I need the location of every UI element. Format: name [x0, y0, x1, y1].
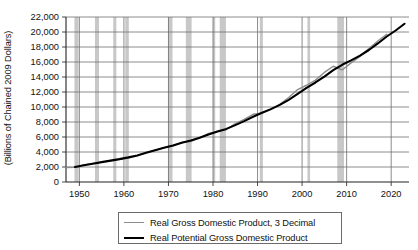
y-axis-tick-label: 22,000	[31, 12, 59, 22]
chart-plot-svg: 22,00020,00018,00016,00014,00012,00010,0…	[0, 0, 418, 205]
x-axis-tick-label: 1970	[158, 189, 179, 199]
x-axis-tick-label: 1950	[69, 189, 90, 199]
legend-label-gdp: Real Gross Domestic Product, 3 Decimal	[150, 218, 315, 228]
chart-container: (Billions of Chained 2009 Dollars) 22,00…	[0, 0, 418, 250]
x-axis-tick-label: 2020	[381, 189, 402, 199]
x-axis-tick-label: 1980	[203, 189, 224, 199]
y-axis-tick-label: 10,000	[31, 102, 59, 112]
legend-label-potential-gdp: Real Potential Gross Domestic Product	[150, 233, 308, 243]
recession-band	[186, 17, 192, 182]
legend-item-gdp: Real Gross Domestic Product, 3 Decimal	[124, 215, 336, 230]
y-axis-tick-label: 4,000	[36, 147, 59, 157]
y-axis-tick-label: 14,000	[31, 72, 59, 82]
recession-band	[307, 17, 310, 182]
y-axis-tick-label: 12,000	[31, 87, 59, 97]
y-axis-tick-label: 0	[54, 177, 59, 187]
recession-band	[113, 17, 116, 182]
recession-band	[260, 17, 263, 182]
legend-item-potential-gdp: Real Potential Gross Domestic Product	[124, 230, 336, 245]
y-axis-tick-label: 2,000	[36, 162, 59, 172]
recession-band	[220, 17, 226, 182]
recession-band	[337, 17, 344, 182]
x-axis-tick-label: 1960	[114, 189, 135, 199]
y-axis-tick-label: 8,000	[36, 117, 59, 127]
x-axis-tick-label: 1990	[247, 189, 268, 199]
series-line-potential-gdp	[75, 24, 405, 167]
y-axis-tick-label: 6,000	[36, 132, 59, 142]
recession-band	[95, 17, 99, 182]
chart-legend: Real Gross Domestic Product, 3 Decimal R…	[118, 212, 342, 244]
y-axis-tick-label: 18,000	[31, 42, 59, 52]
y-axis-title-wrap: (Billions of Chained 2009 Dollars)	[0, 0, 17, 195]
x-axis-tick-label: 2000	[292, 189, 313, 199]
recession-band	[74, 17, 78, 182]
y-axis-title: (Billions of Chained 2009 Dollars)	[3, 30, 13, 165]
legend-swatch-potential-line	[124, 237, 144, 239]
y-axis-tick-label: 16,000	[31, 57, 59, 67]
y-axis-tick-label: 20,000	[31, 27, 59, 37]
legend-swatch-gdp-line	[124, 222, 144, 223]
x-axis-tick-label: 2010	[336, 189, 357, 199]
